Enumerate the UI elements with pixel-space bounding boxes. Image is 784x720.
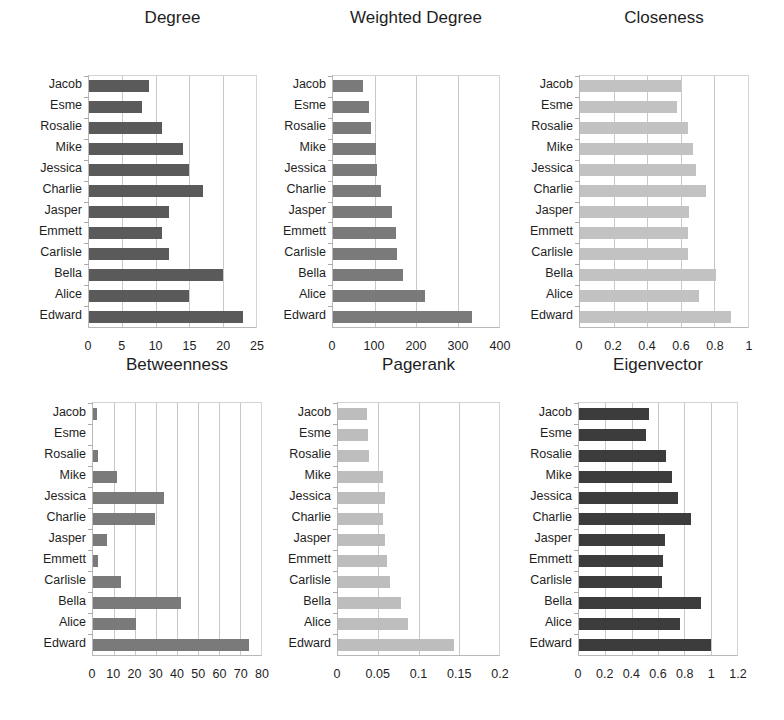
category-label: Rosalie [6, 447, 86, 461]
row-tick [328, 243, 333, 244]
row-tick [574, 592, 579, 593]
bar-bella [93, 597, 181, 609]
category-label: Carlisle [251, 573, 331, 587]
bar-edward [580, 311, 731, 323]
bar-emmett [579, 555, 663, 567]
category-label: Bella [6, 594, 86, 608]
x-tick-label: 0.05 [358, 667, 398, 681]
category-label: Bella [246, 266, 326, 280]
bar-alice [580, 290, 699, 302]
row-tick [88, 571, 93, 572]
category-label: Jasper [6, 531, 86, 545]
row-tick [84, 76, 89, 77]
bar-esme [579, 429, 646, 441]
bar-esme [89, 101, 142, 113]
row-tick [88, 529, 93, 530]
row-tick [333, 550, 338, 551]
bar-esme [338, 429, 368, 441]
row-tick [333, 508, 338, 509]
category-label: Carlisle [6, 573, 86, 587]
category-label: Mike [492, 468, 572, 482]
bar-jacob [93, 408, 97, 420]
category-label: Jacob [6, 405, 86, 419]
row-tick [574, 550, 579, 551]
category-label: Edward [493, 308, 573, 322]
x-tick-label: 400 [480, 339, 520, 353]
x-tick-label: 1 [729, 339, 769, 353]
category-label: Charlie [2, 182, 82, 196]
bar-bella [338, 597, 401, 609]
row-tick [574, 571, 579, 572]
bar-rosalie [89, 122, 162, 134]
plot-area [578, 402, 738, 656]
bar-jessica [579, 492, 678, 504]
row-tick [333, 466, 338, 467]
category-label: Carlisle [2, 245, 82, 259]
row-tick [84, 181, 89, 182]
category-label: Jacob [2, 77, 82, 91]
bar-jacob [579, 408, 649, 420]
x-tick-label: 200 [396, 339, 436, 353]
category-label: Mike [2, 140, 82, 154]
bar-jasper [333, 206, 392, 218]
bar-rosalie [580, 122, 688, 134]
bar-carlisle [338, 576, 390, 588]
row-tick [574, 508, 579, 509]
category-label: Rosalie [492, 447, 572, 461]
category-label: Jacob [492, 405, 572, 419]
chart-title: Betweenness [82, 355, 272, 375]
category-label: Jessica [246, 161, 326, 175]
row-tick [88, 466, 93, 467]
gridline [459, 403, 460, 655]
gridline [156, 403, 157, 655]
category-label: Charlie [493, 182, 573, 196]
x-tick-label: 80 [242, 667, 282, 681]
x-tick-label: 0.2 [480, 667, 520, 681]
category-label: Jasper [2, 203, 82, 217]
category-label: Carlisle [246, 245, 326, 259]
x-tick-label: 0 [317, 667, 357, 681]
category-label: Alice [6, 615, 86, 629]
category-label: Alice [493, 287, 573, 301]
row-tick [333, 592, 338, 593]
bar-edward [338, 639, 454, 651]
bar-emmett [580, 227, 688, 239]
row-tick [88, 592, 93, 593]
row-tick [575, 243, 580, 244]
category-label: Rosalie [493, 119, 573, 133]
plot-area [332, 75, 500, 328]
row-tick [575, 181, 580, 182]
bar-jessica [580, 164, 696, 176]
row-tick [88, 403, 93, 404]
row-tick [88, 634, 93, 635]
row-tick [88, 508, 93, 509]
row-tick [84, 160, 89, 161]
row-tick [84, 306, 89, 307]
category-label: Esme [246, 98, 326, 112]
bar-jessica [89, 164, 189, 176]
chart-title: Degree [78, 8, 267, 28]
row-tick [574, 613, 579, 614]
row-tick [328, 264, 333, 265]
row-tick [575, 76, 580, 77]
row-tick [574, 424, 579, 425]
row-tick [574, 403, 579, 404]
row-tick [574, 466, 579, 467]
row-tick [574, 487, 579, 488]
bar-emmett [89, 227, 162, 239]
gridline [240, 403, 241, 655]
plot-area [92, 402, 262, 656]
bar-rosalie [93, 450, 98, 462]
chart-title: Closeness [569, 8, 759, 28]
category-label: Jacob [493, 77, 573, 91]
bar-esme [333, 101, 369, 113]
bar-alice [338, 618, 408, 630]
bar-jessica [93, 492, 164, 504]
row-tick [84, 264, 89, 265]
bar-rosalie [338, 450, 369, 462]
row-tick [328, 97, 333, 98]
bar-rosalie [579, 450, 666, 462]
category-label: Alice [246, 287, 326, 301]
row-tick [575, 202, 580, 203]
bar-edward [89, 311, 243, 323]
